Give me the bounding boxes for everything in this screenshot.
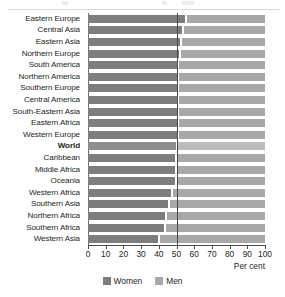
category-label: Eastern Africa: [0, 117, 84, 129]
bar-segment-women: [88, 154, 175, 162]
top-artifact-2: [162, 1, 167, 5]
bar-segment-women: [88, 131, 177, 139]
category-label: Southern Africa: [0, 222, 84, 234]
category-label: Northern America: [0, 71, 84, 83]
category-label: Western Asia: [0, 233, 84, 245]
bar-segment-men: [179, 108, 266, 116]
bar-segment-men: [187, 15, 265, 23]
bar-segment-women: [88, 200, 168, 208]
top-artifact-1: [62, 1, 68, 5]
legend-item-men[interactable]: Men: [155, 277, 182, 285]
bar-segment-women: [88, 96, 177, 104]
bar-segment-men: [181, 50, 265, 58]
category-label: Middle Africa: [0, 164, 84, 176]
bar-segment-men: [179, 131, 266, 139]
bar-segment-women: [88, 15, 185, 23]
bar-segment-men: [173, 189, 265, 197]
x-axis-tick-label: 60: [190, 250, 199, 258]
bar-segment-men: [177, 177, 265, 185]
bar-segment-men: [179, 73, 265, 81]
x-axis-tick-label: 30: [136, 250, 145, 258]
bar-segment-men: [179, 61, 265, 69]
category-label: Oceania: [0, 175, 84, 187]
bar-segment-men: [177, 166, 265, 174]
category-label: Central America: [0, 94, 84, 106]
bar-segment-women: [88, 26, 182, 34]
category-label: South-Eastern Asia: [0, 106, 84, 118]
top-divider: [8, 9, 280, 10]
x-axis-tick-label: 70: [207, 250, 216, 258]
category-label: Northern Europe: [0, 48, 84, 60]
bar-segment-women: [88, 108, 177, 116]
legend-label-women: Women: [114, 277, 143, 285]
x-axis-tick-label: 90: [243, 250, 252, 258]
bar-segment-men: [177, 154, 265, 162]
legend-swatch-men-icon: [155, 277, 163, 285]
bar-segment-women: [88, 212, 165, 220]
bar-segment-men: [184, 26, 265, 34]
bar-segment-women: [88, 84, 177, 92]
bar-segment-women: [88, 142, 176, 150]
bar-segment-women: [88, 38, 180, 46]
legend-swatch-women-icon: [103, 277, 111, 285]
bar-segment-women: [88, 61, 177, 69]
bar-segment-women: [88, 189, 171, 197]
x-axis-tick-label: 20: [119, 250, 128, 258]
legend-label-men: Men: [166, 277, 182, 285]
x-axis-tick-label: 0: [86, 250, 91, 258]
category-label: Western Africa: [0, 187, 84, 199]
category-label: Southern Asia: [0, 199, 84, 211]
bar-segment-women: [88, 177, 175, 185]
category-label: Southern Europe: [0, 83, 84, 95]
bar-segment-men: [170, 200, 265, 208]
bar-segment-women: [88, 73, 177, 81]
chart-figure: Eastern EuropeCentral AsiaEastern AsiaNo…: [0, 0, 285, 297]
bar-segment-women: [88, 235, 158, 243]
category-label: Central Asia: [0, 25, 84, 37]
bar-segment-men: [178, 142, 265, 150]
x-axis-tick-label: 40: [154, 250, 163, 258]
category-label: Eastern Europe: [0, 13, 84, 25]
bar-segment-men: [167, 212, 265, 220]
top-artifact-3: [182, 1, 194, 5]
category-label: Eastern Asia: [0, 36, 84, 48]
bar-segment-men: [182, 38, 265, 46]
bar-segment-women: [88, 50, 179, 58]
x-axis-tick-label: 50: [172, 250, 181, 258]
category-label: World: [0, 141, 84, 153]
x-axis-tick-label: 10: [101, 250, 110, 258]
category-label: South America: [0, 59, 84, 71]
category-label-column: Eastern EuropeCentral AsiaEastern AsiaNo…: [0, 13, 84, 245]
bar-segment-women: [88, 166, 175, 174]
bar-segment-men: [179, 96, 265, 104]
category-label: Western Europe: [0, 129, 84, 141]
category-label: Northern Africa: [0, 210, 84, 222]
x-axis-tick-label: 100: [258, 250, 272, 258]
x-axis-tick-label: 80: [225, 250, 234, 258]
reference-line-50: [177, 13, 178, 245]
legend: Women Men: [0, 277, 285, 285]
bar-segment-men: [179, 84, 265, 92]
bar-segment-men: [166, 224, 265, 232]
bar-segment-women: [88, 119, 177, 127]
plot-area: [88, 13, 265, 245]
category-label: Caribbean: [0, 152, 84, 164]
legend-item-women[interactable]: Women: [103, 277, 143, 285]
bar-segment-women: [88, 224, 164, 232]
x-axis-caption: Per cent: [234, 262, 265, 270]
bar-segment-men: [179, 119, 266, 127]
